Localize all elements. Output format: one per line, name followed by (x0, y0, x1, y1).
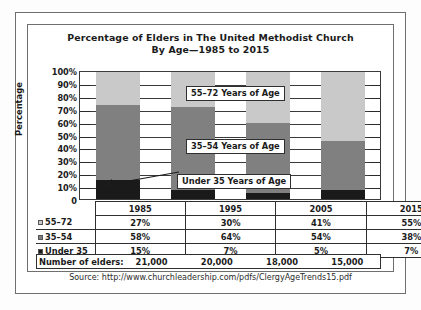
y-tick-20pct: 20% (57, 170, 77, 180)
legend-row-label: 35–54 (36, 230, 95, 244)
y-tick-80pct: 80% (57, 93, 77, 103)
table-cell: 55% (366, 216, 421, 230)
legend-swatch-icon (38, 235, 43, 240)
legend-label-text: 35–54 (45, 232, 72, 242)
table-header-row: 1985199520052015 (36, 202, 421, 216)
y-tick-40pct: 40% (57, 144, 77, 154)
chart-title-line-1: Percentage of Elders in The United Metho… (33, 32, 388, 44)
table-corner-cell (36, 202, 95, 216)
table-header-2015: 2015 (366, 202, 421, 216)
table-cell: 30% (185, 216, 275, 230)
elders-value-1995: 20,000 (184, 257, 249, 267)
segment-under-35-2005 (246, 193, 290, 199)
source-caption: Source: http://www.churchleadership.com/… (33, 273, 388, 282)
segment-55-72-2015 (321, 71, 365, 141)
number-of-elders-label: Number of elders: (37, 257, 119, 267)
y-tick-10pct: 10% (57, 183, 77, 193)
table-row: 35–5458%64%54%38% (36, 230, 421, 244)
bar-column-2015 (305, 72, 380, 199)
callout-35-54: 35–54 Years of Age (186, 139, 285, 154)
table-header-1995: 1995 (185, 202, 275, 216)
y-tick-70pct: 70% (57, 106, 77, 116)
table-cell: 41% (276, 216, 366, 230)
number-of-elders-row: Number of elders: 21,000 20,000 18,000 1… (36, 254, 381, 269)
table-cell: 64% (185, 230, 275, 244)
y-tick-100pct: 100% (52, 67, 77, 77)
table-cell: 38% (366, 230, 421, 244)
legend-label-text: 55–72 (45, 217, 72, 227)
table-cell: 58% (95, 230, 185, 244)
y-tick-30pct: 30% (57, 157, 77, 167)
y-tick-60pct: 60% (57, 119, 77, 129)
segment-35-54-2015 (321, 141, 365, 190)
y-tick-50pct: 50% (57, 132, 77, 142)
elders-value-2005: 18,000 (250, 257, 315, 267)
table-header-1985: 1985 (95, 202, 185, 216)
table-cell: 54% (276, 230, 366, 244)
chart-figure: Percentage of Elders in The United Metho… (0, 0, 421, 310)
chart-title: Percentage of Elders in The United Metho… (33, 32, 388, 57)
stacked-bar-2015 (321, 71, 365, 199)
segment-under-35-2015 (321, 190, 365, 199)
legend-swatch-icon (38, 220, 43, 225)
y-axis-title: Percentage (14, 72, 24, 146)
y-tick-90pct: 90% (57, 80, 77, 90)
data-table: 198519952005201555–7227%30%41%55%35–5458… (36, 201, 421, 258)
legend-swatch-icon (38, 249, 43, 254)
segment-under-35-1995 (171, 190, 215, 199)
elders-value-2015: 15,000 (315, 257, 380, 267)
legend-row-label: 55–72 (36, 216, 95, 230)
callout-55-72: 55–72 Years of Age (186, 86, 285, 101)
callout-under-35: Under 35 Years of Age (177, 174, 291, 189)
elders-value-1985: 21,000 (119, 257, 184, 267)
callout-arrow-icon (96, 168, 180, 190)
table-cell: 27% (95, 216, 185, 230)
segment-55-72-1985 (96, 71, 140, 105)
chart-title-line-2: By Age—1985 to 2015 (33, 44, 388, 56)
table-header-2005: 2005 (276, 202, 366, 216)
table-row: 55–7227%30%41%55% (36, 216, 421, 230)
